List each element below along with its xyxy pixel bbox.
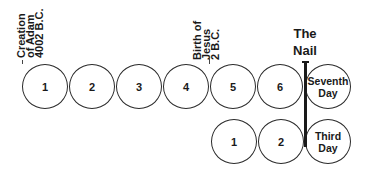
third-day-line2: Day	[318, 142, 337, 154]
day-number: 2	[89, 81, 95, 93]
creation-label-line3: 4002 B.C.	[35, 8, 44, 58]
seventh-day-label: Seventh Day	[308, 75, 349, 99]
nail-title-line2: Nail	[285, 42, 325, 59]
day-number: 5	[230, 81, 236, 93]
seventh-day-line2: Day	[318, 87, 337, 99]
seventh-day-line1: Seventh	[308, 75, 349, 87]
nail-title: The Nail	[285, 25, 325, 59]
day-number: 6	[277, 81, 283, 93]
bottom-circle-2: 2	[258, 119, 304, 164]
third-day-circle: Third Day	[305, 119, 351, 164]
day-number: 2	[278, 136, 284, 148]
nail-title-line1: The	[285, 25, 325, 42]
day-circle-6: 6	[257, 64, 303, 109]
day-circle-1: 1	[22, 64, 68, 109]
day-circle-4: 4	[163, 64, 209, 109]
day-number: 1	[42, 81, 48, 93]
birth-marker	[209, 56, 210, 64]
creation-marker	[22, 60, 23, 64]
third-day-label: Third Day	[315, 130, 341, 154]
day-circle-3: 3	[116, 64, 162, 109]
seventh-day-circle: Seventh Day	[305, 64, 351, 109]
day-circle-2: 2	[69, 64, 115, 109]
third-day-line1: Third	[315, 130, 341, 142]
day-number: 1	[231, 136, 237, 148]
day-circle-5: 5	[210, 64, 256, 109]
day-number: 3	[136, 81, 142, 93]
nail-shaft	[304, 61, 307, 147]
day-number: 4	[183, 81, 189, 93]
birth-label-line3: 2 B.C.	[211, 29, 220, 60]
timeline-diagram: Creation of Adam 4002 B.C. Birth of Jesu…	[0, 0, 367, 173]
bottom-circle-1: 1	[211, 119, 257, 164]
